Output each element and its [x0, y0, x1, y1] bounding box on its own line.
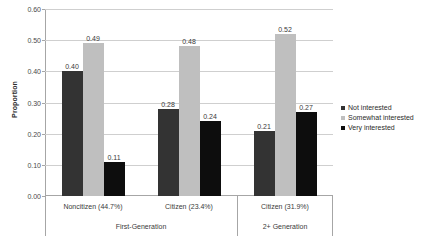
bar: 0.52	[275, 34, 296, 196]
group-label: 2+ Generation	[237, 216, 333, 236]
y-axis-tick-label: 0.60	[27, 6, 41, 13]
y-axis-tick-mark	[42, 134, 45, 135]
bar-value-label: 0.24	[203, 113, 217, 120]
category-label: Noncitizen (44.7%)	[45, 196, 141, 216]
y-axis-tick-label: 0.50	[27, 37, 41, 44]
y-axis-tick-label: 0.30	[27, 99, 41, 106]
y-axis-tick-mark	[42, 103, 45, 104]
bar-value-label: 0.52	[278, 26, 292, 33]
bar: 0.11	[104, 162, 125, 196]
legend-label: Very interested	[348, 124, 395, 131]
bar-value-label: 0.49	[86, 35, 100, 42]
bar-chart: Proportion 0.000.100.200.300.400.500.60 …	[0, 0, 422, 248]
category-labels-row: Noncitizen (44.7%)Citizen (23.4%)Citizen…	[45, 196, 333, 216]
legend-item: Very interested	[341, 124, 421, 131]
plot-area: 0.000.100.200.300.400.500.60 0.400.490.1…	[45, 9, 333, 196]
y-axis-tick-mark	[42, 165, 45, 166]
legend-item: Not interested	[341, 104, 421, 111]
bar-value-label: 0.21	[257, 123, 271, 130]
bar: 0.27	[296, 112, 317, 196]
bar-value-label: 0.40	[65, 63, 79, 70]
legend-item: Somewhat interested	[341, 114, 421, 121]
y-axis-tick-label: 0.00	[27, 193, 41, 200]
category-label: Citizen (23.4%)	[141, 196, 237, 216]
bar: 0.48	[179, 46, 200, 196]
y-axis-tick-mark	[42, 40, 45, 41]
bar: 0.21	[254, 131, 275, 196]
legend-swatch-icon	[341, 116, 345, 120]
axis-separator	[237, 196, 238, 236]
y-axis-tick-label: 0.10	[27, 161, 41, 168]
bar: 0.49	[83, 43, 104, 196]
y-axis-tick-label: 0.20	[27, 130, 41, 137]
category-label: Citizen (31.9%)	[237, 196, 333, 216]
bar: 0.40	[62, 71, 83, 196]
gridline	[45, 9, 333, 10]
y-axis-tick-mark	[42, 71, 45, 72]
legend-label: Not interested	[348, 104, 392, 111]
bar-value-label: 0.28	[161, 101, 175, 108]
y-axis-title: Proportion	[11, 65, 18, 135]
bar: 0.28	[158, 109, 179, 196]
group-label: First-Generation	[45, 216, 237, 236]
bar: 0.24	[200, 121, 221, 196]
axis-separator	[45, 196, 46, 236]
bar-value-label: 0.48	[182, 38, 196, 45]
bar-value-label: 0.11	[107, 154, 120, 161]
bar-value-label: 0.27	[299, 104, 313, 111]
y-axis-tick-label: 0.40	[27, 68, 41, 75]
legend-swatch-icon	[341, 126, 345, 130]
group-labels-row: First-Generation2+ Generation	[45, 216, 333, 236]
legend-label: Somewhat interested	[348, 114, 414, 121]
y-axis-tick-mark	[42, 9, 45, 10]
category-axis: Noncitizen (44.7%)Citizen (23.4%)Citizen…	[45, 196, 333, 236]
legend-swatch-icon	[341, 106, 345, 110]
axis-separator	[332, 196, 333, 236]
legend: Not interestedSomewhat interestedVery in…	[341, 104, 421, 134]
